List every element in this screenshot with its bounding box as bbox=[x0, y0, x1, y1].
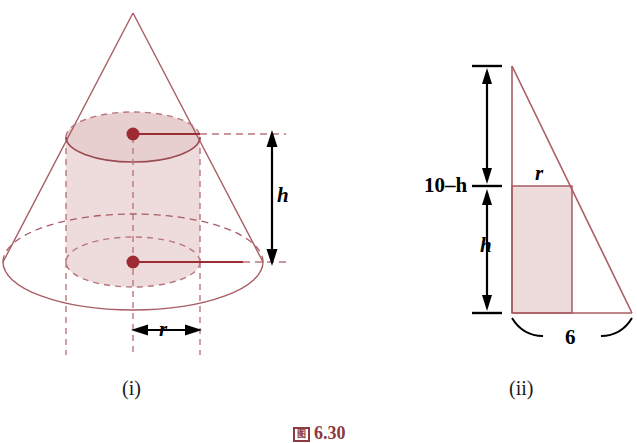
inscribed-rectangle-fill bbox=[512, 186, 572, 313]
figure-caption-glyph: 图 bbox=[293, 427, 310, 442]
panel-i-caption: (i) bbox=[122, 378, 141, 398]
panel-ii-base-label: 6 bbox=[565, 327, 576, 348]
panel-ii-caption: (ii) bbox=[509, 378, 533, 398]
lower-arrow-up bbox=[482, 189, 492, 205]
panel-i-drawing bbox=[0, 0, 340, 400]
figure-caption: 图6.30 bbox=[293, 423, 346, 443]
panel-ii-lower-height-label: h bbox=[480, 235, 492, 256]
upper-arrow-up bbox=[482, 68, 492, 84]
h-arrow-down bbox=[267, 249, 278, 266]
base-brace-right bbox=[601, 318, 632, 336]
upper-arrow-down bbox=[482, 168, 492, 184]
panel-i-radius-label: r bbox=[159, 319, 167, 340]
panel-ii-upper-height-label: 10–h bbox=[424, 175, 467, 196]
figure-caption-number: 6.30 bbox=[314, 423, 346, 443]
panel-ii-drawing bbox=[390, 0, 637, 400]
base-brace-left bbox=[512, 318, 543, 336]
panel-ii-radius-label: r bbox=[535, 163, 543, 184]
top-center-dot bbox=[127, 128, 140, 141]
h-arrow-up bbox=[267, 130, 278, 147]
panel-i-height-label: h bbox=[277, 185, 289, 206]
figure-root: h r (i) 10–h h r 6 (ii) bbox=[0, 0, 637, 443]
lower-arrow-down bbox=[482, 295, 492, 311]
bottom-center-dot bbox=[127, 256, 140, 269]
